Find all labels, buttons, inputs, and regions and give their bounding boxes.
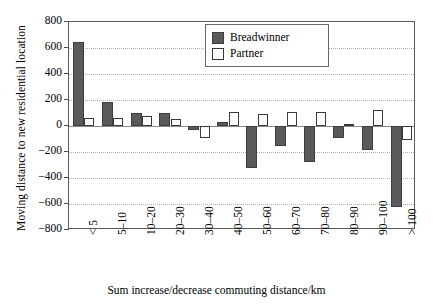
- bar-chart: Moving distance to new residential locat…: [0, 0, 433, 308]
- x-tick-label: < 5: [87, 179, 99, 235]
- bar-breadwinner: [217, 122, 228, 126]
- y-tick-label: −800: [28, 223, 62, 235]
- x-tick-label: 60–70: [290, 179, 302, 235]
- x-axis-title: Sum increase/decrease commuting distance…: [0, 284, 433, 296]
- bar-breadwinner: [333, 126, 344, 138]
- y-tick-label: 400: [28, 67, 62, 79]
- x-tick-label: 90–100: [377, 179, 389, 235]
- bar-partner: [344, 124, 354, 126]
- x-tick-label: 20–30: [174, 179, 186, 235]
- x-axis-tick-labels: < 55–1010–2020–3030–4040–5050–6060–7070–…: [68, 231, 415, 279]
- x-tick-label: 40–50: [232, 179, 244, 235]
- y-axis-title: Moving distance to new residential locat…: [15, 13, 27, 243]
- x-tick-label: 70–80: [319, 179, 331, 235]
- y-tick-mark: [64, 229, 69, 230]
- x-tick-label: > 100: [406, 179, 418, 235]
- legend-label-breadwinner: Breadwinner: [230, 32, 289, 44]
- bar-partner: [373, 110, 383, 126]
- bar-breadwinner: [391, 126, 402, 207]
- bar-breadwinner: [362, 126, 373, 150]
- bar-breadwinner: [131, 113, 142, 126]
- bar-partner: [84, 118, 94, 126]
- y-tick-label: 200: [28, 93, 62, 105]
- legend-item-breadwinner: Breadwinner: [212, 30, 323, 45]
- bar-breadwinner: [188, 126, 199, 130]
- bar-partner: [258, 114, 268, 126]
- legend-item-partner: Partner: [212, 46, 323, 61]
- bar-breadwinner: [73, 42, 84, 127]
- bar-partner: [287, 112, 297, 126]
- legend: Breadwinner Partner: [205, 24, 329, 67]
- y-tick-label: −400: [28, 171, 62, 183]
- bar-breadwinner: [246, 126, 257, 168]
- x-tick-label: 30–40: [203, 179, 215, 235]
- y-tick-label: −600: [28, 197, 62, 209]
- legend-swatch-icon-partner: [212, 48, 224, 60]
- bar-breadwinner: [102, 102, 113, 126]
- x-tick-label: 50–60: [261, 179, 273, 235]
- bar-breadwinner: [275, 126, 286, 146]
- bar-partner: [200, 126, 210, 138]
- bar-breadwinner: [304, 126, 315, 162]
- bar-partner: [316, 112, 326, 126]
- y-tick-label: 800: [28, 15, 62, 27]
- y-tick-label: −200: [28, 145, 62, 157]
- legend-label-partner: Partner: [230, 48, 263, 60]
- y-axis-tick-labels: 8006004002000−200−400−600−800: [28, 0, 62, 308]
- bar-partner: [402, 126, 412, 140]
- bar-partner: [229, 112, 239, 126]
- legend-swatch-icon-breadwinner: [212, 32, 224, 44]
- y-tick-label: 0: [28, 119, 62, 131]
- bar-partner: [171, 119, 181, 126]
- x-tick-label: 80–90: [348, 179, 360, 235]
- bar-partner: [142, 116, 152, 126]
- x-tick-label: 5–10: [116, 179, 128, 235]
- bar-breadwinner: [159, 113, 170, 126]
- x-tick-label: 10–20: [145, 179, 157, 235]
- y-tick-label: 600: [28, 41, 62, 53]
- bar-partner: [113, 118, 123, 126]
